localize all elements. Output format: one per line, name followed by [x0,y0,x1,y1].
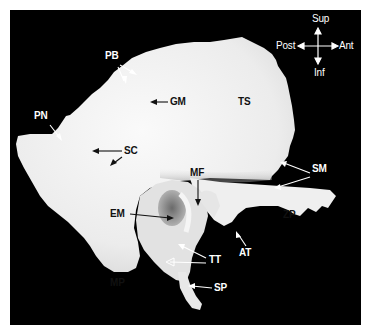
orientation-post-label: Post [276,41,295,51]
label-at: AT [239,248,251,258]
label-zp: ZP [283,210,295,220]
label-sm: SM [312,164,327,174]
label-pb: PB [105,51,119,61]
label-pn: PN [34,111,48,121]
label-mp: MP [110,278,125,288]
label-sc: SC [124,146,138,156]
orientation-ant-label: Ant [339,41,353,51]
orientation-sup-label: Sup [312,14,329,24]
orientation-compass-arrows [10,10,361,325]
label-tt: TT [209,255,221,265]
label-ts: TS [238,97,250,107]
label-sp: SP [214,283,227,293]
label-mf: MF [190,168,204,178]
label-gm: GM [170,97,186,107]
figure-panel: Sup Inf Post Ant PB PN GM TS SC SM MF EM… [10,10,361,325]
label-em: EM [110,209,125,219]
orientation-inf-label: Inf [314,68,325,78]
